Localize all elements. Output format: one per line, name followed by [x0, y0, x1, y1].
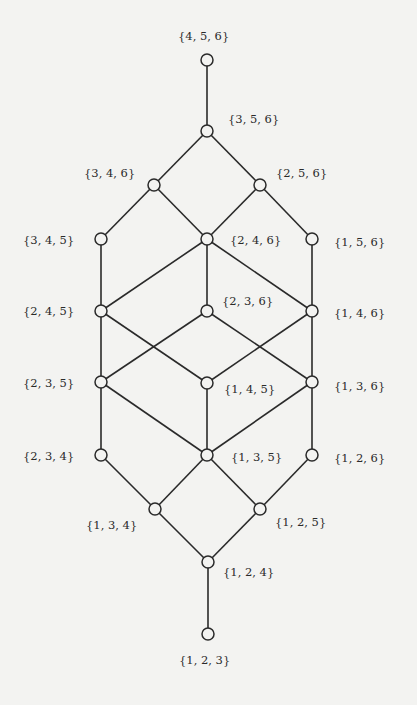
edge-356-346 — [154, 131, 207, 185]
edge-346-246 — [154, 185, 207, 239]
node-label-135: {1, 3, 5} — [231, 450, 282, 464]
node-236 — [201, 305, 213, 317]
node-label-136: {1, 3, 6} — [334, 379, 385, 393]
node-label-236: {2, 3, 6} — [222, 294, 273, 308]
lattice-graph — [0, 0, 417, 705]
node-label-123: {1, 2, 3} — [179, 653, 230, 667]
edge-356-256 — [207, 131, 260, 185]
node-label-345: {3, 4, 5} — [23, 233, 74, 247]
node-345 — [95, 233, 107, 245]
edge-135-134 — [155, 455, 207, 509]
node-125 — [254, 503, 266, 515]
edge-256-156 — [260, 185, 312, 239]
node-label-156: {1, 5, 6} — [334, 235, 385, 249]
edge-134-124 — [155, 509, 208, 562]
node-label-456: {4, 5, 6} — [178, 29, 229, 43]
nodes-layer — [95, 54, 318, 640]
node-346 — [148, 179, 160, 191]
edge-346-345 — [101, 185, 154, 239]
node-256 — [254, 179, 266, 191]
node-label-145: {1, 4, 5} — [224, 382, 275, 396]
node-235 — [95, 376, 107, 388]
node-124 — [202, 556, 214, 568]
node-134 — [149, 503, 161, 515]
node-136 — [306, 376, 318, 388]
node-label-246: {2, 4, 6} — [230, 233, 281, 247]
node-label-234: {2, 3, 4} — [23, 449, 74, 463]
node-label-256: {2, 5, 6} — [276, 166, 327, 180]
node-label-126: {1, 2, 6} — [334, 451, 385, 465]
node-246 — [201, 233, 213, 245]
node-156 — [306, 233, 318, 245]
edge-246-245 — [101, 239, 207, 311]
node-label-134: {1, 3, 4} — [86, 518, 137, 532]
node-135 — [201, 449, 213, 461]
edge-125-124 — [208, 509, 260, 562]
node-356 — [201, 125, 213, 137]
node-126 — [306, 449, 318, 461]
node-456 — [201, 54, 213, 66]
node-123 — [202, 628, 214, 640]
edge-234-134 — [101, 455, 155, 509]
node-234 — [95, 449, 107, 461]
node-label-124: {1, 2, 4} — [223, 565, 274, 579]
edges-layer — [101, 60, 312, 634]
node-label-125: {1, 2, 5} — [275, 515, 326, 529]
node-label-356: {3, 5, 6} — [228, 112, 279, 126]
node-245 — [95, 305, 107, 317]
edge-256-246 — [207, 185, 260, 239]
node-label-346: {3, 4, 6} — [84, 166, 135, 180]
edge-235-135 — [101, 382, 207, 455]
node-label-146: {1, 4, 6} — [334, 306, 385, 320]
hasse-diagram-canvas: {4, 5, 6}{3, 5, 6}{3, 4, 6}{2, 5, 6}{3, … — [0, 0, 417, 705]
node-145 — [201, 377, 213, 389]
node-label-245: {2, 4, 5} — [23, 304, 74, 318]
node-label-235: {2, 3, 5} — [23, 376, 74, 390]
node-146 — [306, 305, 318, 317]
